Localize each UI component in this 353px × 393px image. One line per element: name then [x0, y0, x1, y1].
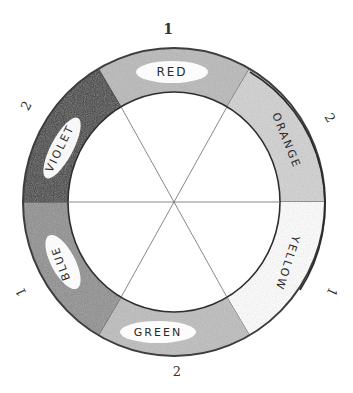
label-red: RED: [156, 65, 187, 79]
number-upper-left: 2: [18, 98, 35, 113]
number-top: 1: [163, 21, 173, 37]
number-lower-left: 1: [12, 285, 29, 299]
number-upper-right: 2: [321, 110, 338, 125]
number-bottom: 2: [173, 364, 181, 379]
label-green: GREEN: [134, 326, 182, 339]
number-lower-right: 1: [324, 285, 341, 299]
color-wheel-diagram: RED ORANGE YELLOW GREEN BLUE VIOLET 1 2 …: [0, 0, 353, 393]
